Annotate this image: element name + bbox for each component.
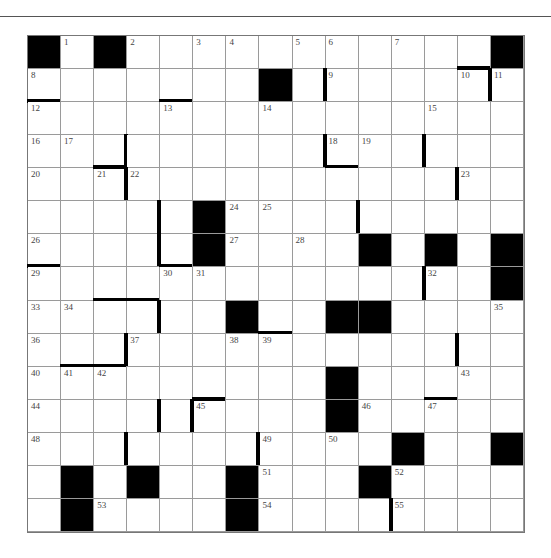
grid-cell[interactable]: [160, 234, 193, 267]
grid-cell[interactable]: [160, 36, 193, 69]
grid-cell[interactable]: [326, 102, 359, 135]
grid-cell[interactable]: [94, 201, 127, 234]
grid-cell[interactable]: [259, 36, 292, 69]
grid-cell[interactable]: [193, 168, 226, 201]
grid-cell[interactable]: [458, 102, 491, 135]
grid-cell[interactable]: [491, 400, 524, 433]
grid-cell[interactable]: [193, 499, 226, 532]
grid-cell[interactable]: [458, 466, 491, 499]
grid-cell[interactable]: 7: [392, 36, 425, 69]
grid-cell[interactable]: [458, 36, 491, 69]
grid-cell[interactable]: 19: [359, 135, 392, 168]
grid-cell[interactable]: [425, 367, 458, 400]
grid-cell[interactable]: [193, 69, 226, 102]
grid-cell[interactable]: [293, 135, 326, 168]
grid-cell[interactable]: [326, 267, 359, 300]
grid-cell[interactable]: 27: [226, 234, 259, 267]
grid-cell[interactable]: [94, 433, 127, 466]
grid-cell[interactable]: [458, 400, 491, 433]
grid-cell[interactable]: [491, 168, 524, 201]
grid-cell[interactable]: [61, 334, 94, 367]
grid-cell[interactable]: 36: [28, 334, 61, 367]
grid-cell[interactable]: [359, 168, 392, 201]
grid-cell[interactable]: [392, 234, 425, 267]
grid-cell[interactable]: 47: [425, 400, 458, 433]
grid-cell[interactable]: 52: [392, 466, 425, 499]
grid-cell[interactable]: 40: [28, 367, 61, 400]
grid-cell[interactable]: 30: [160, 267, 193, 300]
grid-cell[interactable]: 8: [28, 69, 61, 102]
grid-cell[interactable]: [491, 499, 524, 532]
grid-cell[interactable]: 42: [94, 367, 127, 400]
grid-cell[interactable]: 50: [326, 433, 359, 466]
grid-cell[interactable]: [392, 367, 425, 400]
grid-cell[interactable]: [61, 168, 94, 201]
grid-cell[interactable]: [160, 168, 193, 201]
grid-cell[interactable]: [326, 499, 359, 532]
grid-cell[interactable]: 38: [226, 334, 259, 367]
grid-cell[interactable]: [226, 102, 259, 135]
grid-cell[interactable]: [326, 466, 359, 499]
grid-cell[interactable]: [359, 69, 392, 102]
grid-cell[interactable]: [127, 400, 160, 433]
grid-cell[interactable]: [160, 201, 193, 234]
grid-cell[interactable]: [61, 102, 94, 135]
grid-cell[interactable]: 3: [193, 36, 226, 69]
grid-cell[interactable]: [425, 36, 458, 69]
grid-cell[interactable]: 37: [127, 334, 160, 367]
grid-cell[interactable]: 24: [226, 201, 259, 234]
grid-cell[interactable]: [458, 433, 491, 466]
grid-cell[interactable]: 41: [61, 367, 94, 400]
grid-cell[interactable]: [193, 334, 226, 367]
grid-cell[interactable]: [359, 36, 392, 69]
grid-cell[interactable]: [127, 135, 160, 168]
grid-cell[interactable]: [458, 201, 491, 234]
grid-cell[interactable]: [425, 433, 458, 466]
grid-cell[interactable]: [127, 234, 160, 267]
grid-cell[interactable]: [94, 301, 127, 334]
grid-cell[interactable]: 51: [259, 466, 292, 499]
grid-cell[interactable]: [193, 367, 226, 400]
grid-cell[interactable]: [293, 334, 326, 367]
grid-cell[interactable]: 35: [491, 301, 524, 334]
grid-cell[interactable]: 29: [28, 267, 61, 300]
grid-cell[interactable]: [491, 367, 524, 400]
grid-cell[interactable]: [425, 201, 458, 234]
grid-cell[interactable]: 22: [127, 168, 160, 201]
grid-cell[interactable]: [226, 135, 259, 168]
grid-cell[interactable]: 34: [61, 301, 94, 334]
grid-cell[interactable]: 23: [458, 168, 491, 201]
grid-cell[interactable]: [94, 466, 127, 499]
grid-cell[interactable]: [61, 69, 94, 102]
grid-cell[interactable]: [127, 102, 160, 135]
grid-cell[interactable]: 55: [392, 499, 425, 532]
grid-cell[interactable]: [458, 267, 491, 300]
grid-cell[interactable]: [359, 102, 392, 135]
grid-cell[interactable]: [293, 267, 326, 300]
grid-cell[interactable]: [293, 433, 326, 466]
grid-cell[interactable]: [392, 201, 425, 234]
grid-cell[interactable]: 2: [127, 36, 160, 69]
grid-cell[interactable]: [193, 135, 226, 168]
grid-cell[interactable]: [326, 168, 359, 201]
grid-cell[interactable]: [94, 267, 127, 300]
grid-cell[interactable]: 28: [293, 234, 326, 267]
grid-cell[interactable]: [259, 168, 292, 201]
grid-cell[interactable]: [94, 334, 127, 367]
grid-cell[interactable]: 5: [293, 36, 326, 69]
grid-cell[interactable]: 4: [226, 36, 259, 69]
grid-cell[interactable]: [127, 201, 160, 234]
grid-cell[interactable]: [458, 234, 491, 267]
grid-cell[interactable]: 49: [259, 433, 292, 466]
grid-cell[interactable]: [28, 499, 61, 532]
grid-cell[interactable]: 48: [28, 433, 61, 466]
grid-cell[interactable]: [425, 499, 458, 532]
grid-cell[interactable]: [392, 102, 425, 135]
grid-cell[interactable]: 11: [491, 69, 524, 102]
grid-cell[interactable]: [160, 433, 193, 466]
grid-cell[interactable]: [127, 301, 160, 334]
grid-cell[interactable]: 20: [28, 168, 61, 201]
grid-cell[interactable]: [160, 334, 193, 367]
grid-cell[interactable]: [259, 267, 292, 300]
grid-cell[interactable]: [259, 367, 292, 400]
